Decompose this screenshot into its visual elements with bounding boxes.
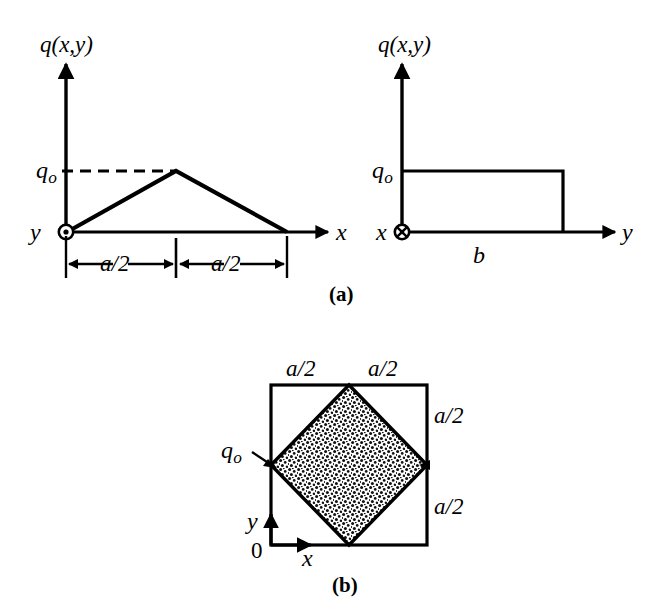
right-plot-origin-axis-label: x bbox=[376, 220, 387, 244]
left-plot-qo-label: qo bbox=[36, 158, 57, 182]
left-plot-vertical-axis-label: q(x,y) bbox=[40, 33, 93, 56]
plate-x-axis-label: x bbox=[302, 546, 313, 570]
left-plot-triangular-load-profile bbox=[67, 171, 287, 232]
left-plot-qo-subscript: o bbox=[48, 168, 57, 187]
plate-load-subscript: o bbox=[233, 448, 242, 467]
plate-right-bottom-dimension: a/2 bbox=[434, 495, 463, 518]
panel-a-left-plot bbox=[59, 64, 328, 278]
plate-right-top-dimension: a/2 bbox=[434, 404, 463, 427]
plate-origin-label: 0 bbox=[251, 539, 263, 562]
plate-load-label: qo bbox=[221, 438, 242, 462]
right-plot-horizontal-axis-label: y bbox=[622, 220, 633, 244]
right-plot-qo-subscript: o bbox=[384, 168, 393, 187]
right-plot-dimension-b: b bbox=[473, 243, 485, 267]
left-plot-horizontal-axis-label: x bbox=[336, 220, 347, 244]
left-plot-origin-axis-label: y bbox=[30, 220, 41, 244]
panel-b-caption: (b) bbox=[332, 575, 358, 596]
plate-y-axis-label: y bbox=[247, 509, 258, 533]
panel-a-right-plot bbox=[395, 64, 615, 239]
plate-load-symbol: q bbox=[221, 437, 233, 463]
plate-top-left-dimension: a/2 bbox=[286, 357, 315, 380]
left-plot-qo-symbol: q bbox=[36, 157, 48, 183]
right-plot-uniform-load-profile bbox=[402, 171, 563, 233]
left-plot-dimension-left: a/2 bbox=[100, 252, 129, 275]
panel-b-plate bbox=[252, 385, 430, 545]
left-plot-dimension-right: a/2 bbox=[211, 252, 240, 275]
figure-root: q(x,y) qo y x a/2 a/2 q(x,y) qo x y b (a… bbox=[0, 0, 660, 606]
panel-a-caption: (a) bbox=[329, 284, 354, 305]
right-plot-vertical-axis-label: q(x,y) bbox=[378, 33, 431, 56]
right-plot-qo-label: qo bbox=[372, 158, 393, 182]
right-plot-qo-symbol: q bbox=[372, 157, 384, 183]
plate-top-right-dimension: a/2 bbox=[368, 357, 397, 380]
circle-cross-icon bbox=[395, 225, 409, 239]
